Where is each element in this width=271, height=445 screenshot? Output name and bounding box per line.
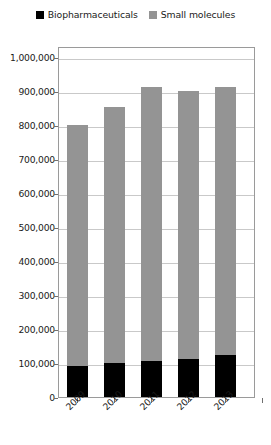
x-axis-tick-label-2009: 2009 [64, 389, 86, 411]
x-axis-tick-label-2011: 2011 [138, 389, 160, 411]
x-axis-tick-label-2012: 2012 [175, 389, 197, 411]
x-axis-tick-label-2013: 2013 [212, 389, 234, 411]
x-axis: 20092010201120122013 [0, 0, 271, 445]
x-axis-tick-label-2010: 2010 [101, 389, 123, 411]
